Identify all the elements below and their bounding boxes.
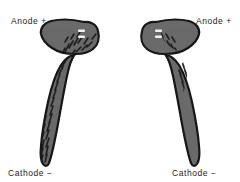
planarian-right bbox=[128, 16, 232, 168]
eyespot-icon bbox=[155, 36, 162, 38]
eyespot-icon bbox=[78, 30, 85, 32]
cathode-label-right: Cathode − bbox=[172, 169, 216, 178]
planarian-body-left bbox=[41, 20, 99, 166]
planarian-outline-left bbox=[41, 20, 99, 166]
planarian-body-right bbox=[141, 20, 199, 166]
eyespot-icon bbox=[155, 30, 162, 32]
eyespot-icon bbox=[78, 36, 85, 38]
electrophysiology-figure: Anode + Anode + Cathode − Cathode − bbox=[0, 0, 240, 182]
planarian-outline-right bbox=[141, 20, 199, 166]
cathode-label-left: Cathode − bbox=[8, 169, 52, 178]
planarian-left bbox=[8, 16, 112, 168]
